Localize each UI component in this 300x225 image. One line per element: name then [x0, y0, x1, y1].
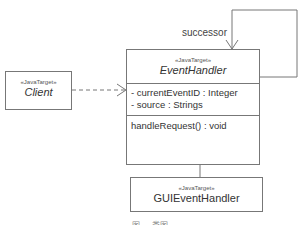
class-client[interactable]: «JavaTarget» Client	[5, 71, 72, 110]
class-event-handler[interactable]: «JavaTarget» EventHandler - currentEvent…	[126, 49, 260, 165]
successor-label: successor	[182, 27, 227, 38]
event-handler-attributes: - currentEventID : Integer - source : St…	[127, 83, 259, 115]
gui-event-handler-class-name: GUIEventHandler	[131, 192, 262, 205]
event-handler-class-name: EventHandler	[127, 64, 259, 77]
event-handler-operations: handleRequest() : void	[127, 115, 259, 132]
operation-handle-request: handleRequest() : void	[127, 120, 259, 132]
class-gui-event-handler[interactable]: «JavaTarget» GUIEventHandler	[130, 177, 263, 212]
attribute-current-event-id: - currentEventID : Integer	[127, 87, 259, 99]
client-stereotype: «JavaTarget»	[6, 78, 71, 86]
client-class-name: Client	[6, 86, 71, 99]
gui-event-handler-stereotype: «JavaTarget»	[131, 184, 262, 192]
event-handler-stereotype: «JavaTarget»	[127, 56, 259, 64]
attribute-source: - source : Strings	[127, 99, 259, 111]
figure-caption: 图 … 类图	[0, 219, 300, 225]
event-handler-header: «JavaTarget» EventHandler	[127, 50, 259, 83]
